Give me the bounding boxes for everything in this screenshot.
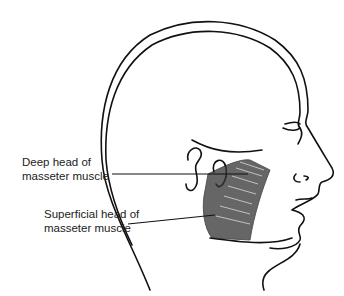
superficial-head-label-line2: masseter muscle	[44, 221, 139, 235]
neck	[263, 244, 300, 290]
deep-head-label-line2: masseter muscle	[22, 169, 109, 183]
skull-outer	[101, 22, 333, 290]
masseter-muscle	[203, 160, 270, 240]
cranial-base	[192, 140, 262, 152]
deep-head-label-line1: Deep head of	[22, 155, 109, 169]
nostril	[294, 174, 308, 182]
superficial-head-label-line1: Superficial head of	[44, 207, 139, 221]
superficial-head-leader-line	[128, 215, 215, 224]
deep-head-label: Deep head of masseter muscle	[22, 155, 109, 183]
head-profile-illustration	[0, 0, 344, 296]
ear	[186, 148, 201, 190]
superficial-head-label: Superficial head of masseter muscle	[44, 207, 139, 235]
